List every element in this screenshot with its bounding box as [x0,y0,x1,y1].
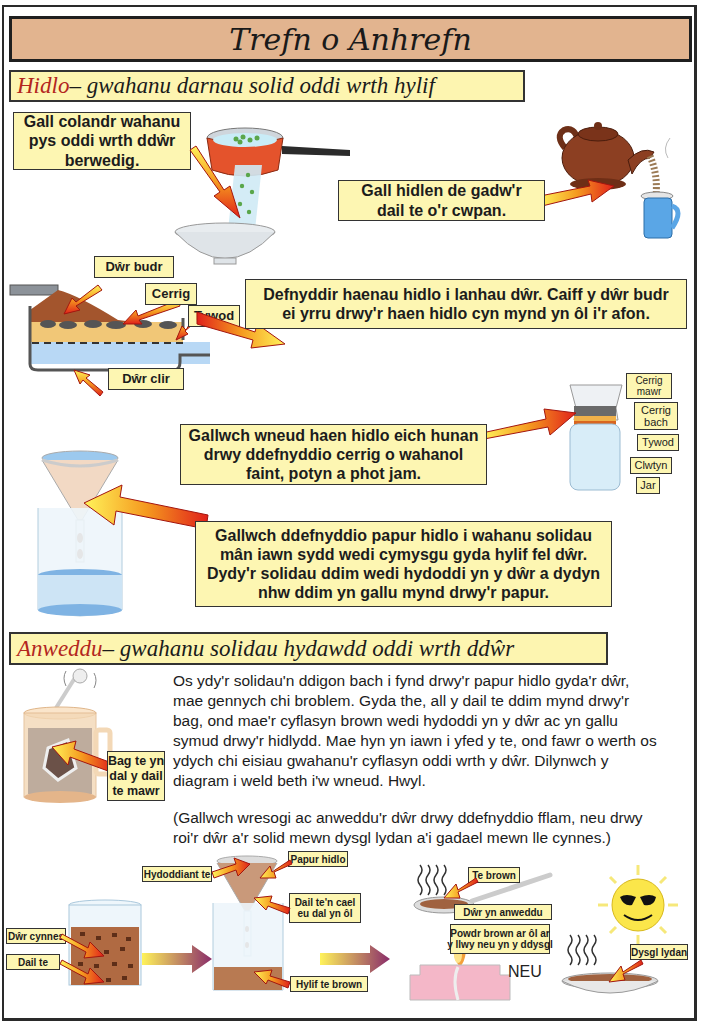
callout-line: Gall colandr wahanu [24,112,180,131]
paragraph-line: Os ydy'r solidau'n ddigon bach i fynd dr… [173,671,698,691]
paragraph-line: diagram i weld beth i'w wneud. Hwyl. [173,771,698,791]
tea-strainer-arrow [540,180,620,220]
paragraph-line: bag, ond mae'r cyflasyn brown wedi hydod… [173,711,698,731]
callout-line: berwedig. [24,151,180,170]
paragraph-line: roi'r dŵr a'r solid mewn dysgl lydan a'i… [173,828,698,848]
label-line: Cerrig [635,375,662,386]
label-cloth: Clwtyn [630,457,672,474]
tea-strainer-callout: Gall hidlen de gadw'r dail te o'r cwpan. [338,180,545,221]
label-line: Powdr brown ar ôl ar [450,928,549,939]
step-arrow-2 [320,945,392,975]
callout-line: Gallwch wneud haen hidlo eich hunan [189,426,479,445]
callout-line: nhw ddim yn gallu mynd drwy'r papur. [207,583,600,602]
section-heading-anweddu: Anweddu – gwahanu solidau hydawdd oddi w… [9,632,608,665]
evaporation-paragraph-1: Os ydy'r solidau'n ddigon bach i fynd dr… [173,671,698,791]
step-arrow-1 [142,945,214,975]
callout-line: ei yrru drwy'r haen hidlo cyn mynd yn ôl… [263,304,668,323]
callout-line: faint, potyn a phot jam. [189,464,479,483]
label-small-stones: Cerrig bach [634,402,678,430]
label-dirty-water: Dŵr budr [94,256,174,278]
paragraph-line: (Gallwch wresogi ac anweddu'r dŵr drwy d… [173,808,698,828]
label-stones: Cerrig [145,283,197,305]
callout-line: dail te o'r cwpan. [361,201,521,220]
evaporation-paragraph-2: (Gallwch wresogi ac anweddu'r dŵr drwy d… [173,808,698,848]
wide-dish-arrow [605,958,645,988]
colander-callout: Gall colandr wahanu pys oddi wrth ddŵr b… [13,112,191,170]
label-big-stones: Cerrig mawr [626,373,672,399]
or-label: NEU [508,963,542,981]
paragraph-line: mae gennych chi broblem. Gyda the, all y… [173,691,698,711]
page-title-bar: Trefn o Anhrefn [9,16,692,62]
label-jar: Jar [636,477,660,494]
label-tea-leaves: Dail te [6,954,60,970]
jar-callout-arrow [480,405,580,441]
callout-line: Gall hidlen de gadw'r [361,181,521,200]
label-warm-water: Dŵr cynnes [6,928,66,944]
label-tea-solution: Hydoddiant te [142,866,212,882]
label-line: dal y dail [109,769,163,784]
label-line: Cerrig [641,404,671,416]
callout-line: drwy ddefnyddio cerrig o wahanol [189,445,479,464]
heading-keyword: Anweddu [17,636,103,662]
label-clean-water: Dŵr clir [108,368,184,390]
label-sand-jar: Tywod [637,434,679,451]
brown-tea-arrow [440,876,480,906]
heading-subtitle: – gwahanu solidau hydawdd oddi wrth ddŵr [103,636,514,662]
heading-keyword: Hidlo [17,73,69,99]
heading-subtitle: – gwahanu darnau solid oddi wrth hylif [69,73,434,99]
callout-line: Gallwch ddefnyddio papur hidlo i wahanu … [207,526,600,545]
callout-line: Dydy'r solidau ddim wedi hydoddi yn y dŵ… [207,564,600,583]
label-line: mawr [637,386,661,397]
callout-line: mân iawn sydd wedi cymysgu gyda hylif fe… [207,545,600,564]
tea-leaves-arrows [60,930,120,990]
label-line: te mawr [112,784,159,799]
callout-line: Defnyddir haenau hidlo i lanhau dŵr. Cai… [263,285,668,304]
filter-paper-arrow [80,475,210,535]
tea-bag-label: Bag te yn dal y dail te mawr [107,751,165,801]
tea-filter-arrows [210,856,310,996]
section-heading-hidlo: Hidlo – gwahanu darnau solid oddi wrth h… [9,70,525,102]
saucepan-colander-illustration [170,120,360,250]
label-line: bach [644,416,668,428]
label-water-evaporating: Dŵr yn anweddu [454,904,552,920]
paragraph-line: ydych chi eisiau gwahanu'r cyflasyn oddi… [173,751,698,771]
label-brown-powder: Powdr brown ar ôl ar y llwy neu yn y ddy… [450,924,550,954]
filter-bed-callout: Defnyddir haenau hidlo i lanhau dŵr. Cai… [245,279,687,329]
paragraph-line: symud drwy'r hidlydd. Mae hyn yn iawn i … [173,731,698,751]
callout-line: pys oddi wrth ddŵr [24,131,180,150]
filter-paper-callout: Gallwch ddefnyddio papur hidlo i wahanu … [195,521,612,607]
label-line: Bag te yn [108,754,164,769]
page-title: Trefn o Anhrefn [229,22,472,57]
label-line: y llwy neu yn y ddysgl [447,939,553,950]
jar-filter-callout: Gallwch wneud haen hidlo eich hunan drwy… [180,424,487,485]
